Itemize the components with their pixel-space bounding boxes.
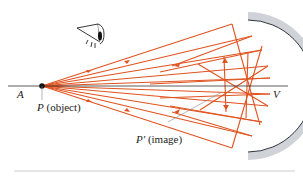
eye-icon — [77, 24, 104, 48]
label-object: P (object) — [37, 102, 81, 113]
label-object-suffix: (object) — [44, 101, 81, 113]
bottom-divider — [14, 170, 295, 172]
label-axis-a: A — [17, 89, 24, 100]
mirror-diagram — [0, 0, 303, 176]
label-image: P′ (image) — [136, 134, 182, 145]
label-image-suffix: (image) — [145, 133, 182, 145]
label-object-letter: P — [37, 101, 44, 113]
label-image-letter: P′ — [136, 133, 145, 145]
label-vertex: V — [273, 89, 280, 100]
